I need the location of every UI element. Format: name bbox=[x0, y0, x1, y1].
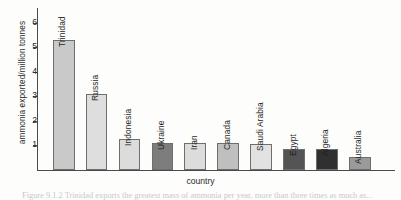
bar-label-saudi-arabia: Saudi Arabia bbox=[255, 103, 265, 152]
y-tick-label: 6 bbox=[11, 17, 37, 27]
figure-caption: Figure 9.1.2 Trinidad exports the greate… bbox=[22, 191, 401, 200]
bar-label-indonesia: Indonesia bbox=[123, 109, 133, 146]
y-tick-label: 4 bbox=[11, 66, 37, 76]
y-tick-label: 5 bbox=[11, 41, 37, 51]
y-tick-label: 3 bbox=[11, 90, 37, 100]
plot-area: TrinidadRussiaIndonesiaUkraineIranCanada… bbox=[38, 8, 395, 170]
bar-label-canada: Canada bbox=[222, 120, 232, 150]
bar-label-egypt: Egypt bbox=[288, 134, 298, 156]
bar-label-trinidad: Trinidad bbox=[57, 16, 67, 47]
bar-label-australia: Australia bbox=[353, 130, 363, 163]
bar-russia bbox=[86, 94, 108, 170]
x-axis-title: country bbox=[0, 176, 401, 186]
y-tick-label: 1 bbox=[11, 139, 37, 149]
x-axis-line bbox=[37, 170, 395, 171]
y-tick-label: 2 bbox=[11, 115, 37, 125]
bar-label-ukraine: Ukraine bbox=[156, 120, 166, 150]
bar-label-russia: Russia bbox=[90, 75, 100, 101]
bar-label-iran: Iran bbox=[189, 135, 199, 150]
bar-trinidad bbox=[53, 40, 75, 170]
figure-container: ammonia exported/million tonnes 123456 T… bbox=[0, 0, 401, 200]
bar-label-algeria: Algeria bbox=[320, 129, 330, 156]
